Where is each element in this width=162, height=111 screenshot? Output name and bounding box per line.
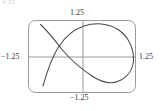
axis-label-right: 1.25 <box>139 52 153 61</box>
axis-label-left: −1.25 <box>1 52 20 61</box>
axis-label-top: 1.25 <box>70 8 84 17</box>
axis-label-bottom: −1.25 <box>70 93 89 102</box>
figure-container: 4.22 1.25 −1.25 −1.25 1.25 <box>0 0 162 111</box>
